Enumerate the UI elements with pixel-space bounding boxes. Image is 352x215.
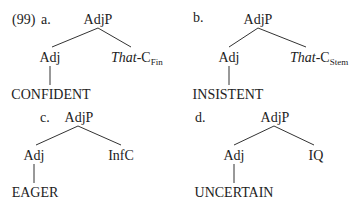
tree-c-right-child: InfC	[108, 148, 134, 164]
branch-b-left	[229, 28, 258, 47]
tree-b-leaf: INSISTENT	[193, 87, 264, 103]
tree-a-root: AdjP	[84, 12, 113, 28]
branch-b-right	[258, 28, 306, 47]
branch-d-right	[274, 126, 314, 145]
tree-d-right-child: IQ	[309, 148, 324, 164]
tree-c-root: AdjP	[65, 110, 94, 126]
tree-d-left-child: Adj	[224, 148, 245, 164]
branch-c-right	[78, 126, 121, 145]
tree-b-left-child: Adj	[219, 50, 240, 66]
tree-b-root: AdjP	[244, 12, 273, 28]
tree-a-left-child: Adj	[40, 50, 61, 66]
tree-a-leaf: CONFIDENT	[11, 87, 90, 103]
tree-a-right-child: That-CFin	[111, 50, 163, 67]
tree-d-root: AdjP	[261, 110, 290, 126]
tree-branches	[0, 0, 352, 215]
tree-a-letter: a.	[41, 12, 51, 28]
tree-b-letter: b.	[193, 10, 204, 26]
tree-c-left-child: Adj	[24, 148, 45, 164]
tree-b-right-child: That-CStem	[290, 50, 348, 67]
branch-c-left	[36, 126, 78, 145]
branch-a-left	[52, 28, 98, 47]
branch-a-right	[98, 28, 131, 47]
branch-d-left	[234, 126, 274, 145]
tree-c-leaf: EAGER	[12, 185, 59, 201]
tree-d-letter: d.	[195, 110, 206, 126]
tree-c-letter: c.	[40, 110, 50, 126]
tree-d-leaf: UNCERTAIN	[195, 185, 274, 201]
example-number: (99)	[12, 12, 35, 28]
